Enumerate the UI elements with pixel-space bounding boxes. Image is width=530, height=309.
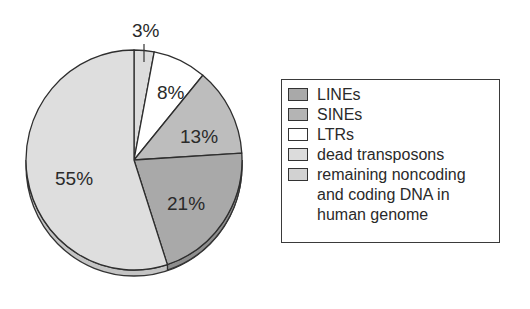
label-8pct: 8% bbox=[157, 82, 185, 103]
legend-item-ltrs: LTRs bbox=[288, 125, 497, 145]
legend-item-dead-transposons: dead transposons bbox=[288, 145, 497, 165]
label-55pct: 55% bbox=[55, 168, 93, 189]
legend: LINEs SINEs LTRs dead transposons remain… bbox=[281, 79, 500, 243]
legend-swatch-ltrs bbox=[288, 128, 308, 141]
legend-swatch-remaining-dna bbox=[288, 168, 308, 181]
legend-swatch-lines bbox=[288, 88, 308, 101]
legend-item-lines: LINEs bbox=[288, 85, 497, 105]
legend-label-remaining-dna: remaining noncoding and coding DNA in hu… bbox=[317, 165, 497, 225]
legend-label-sines: SINEs bbox=[317, 105, 497, 125]
label-13pct: 13% bbox=[180, 126, 218, 147]
legend-label-ltrs: LTRs bbox=[317, 125, 497, 145]
legend-swatch-sines bbox=[288, 108, 308, 121]
pie-slices bbox=[26, 50, 242, 270]
legend-label-dead-transposons: dead transposons bbox=[317, 145, 497, 165]
legend-item-sines: SINEs bbox=[288, 105, 497, 125]
legend-label-lines: LINEs bbox=[317, 85, 497, 105]
legend-item-remaining-dna: remaining noncoding and coding DNA in hu… bbox=[288, 165, 497, 225]
pie-chart: 3% 8% 13% 21% 55% bbox=[0, 0, 270, 309]
label-3pct: 3% bbox=[132, 20, 160, 41]
legend-swatch-dead-transposons bbox=[288, 148, 308, 161]
label-21pct: 21% bbox=[167, 193, 205, 214]
